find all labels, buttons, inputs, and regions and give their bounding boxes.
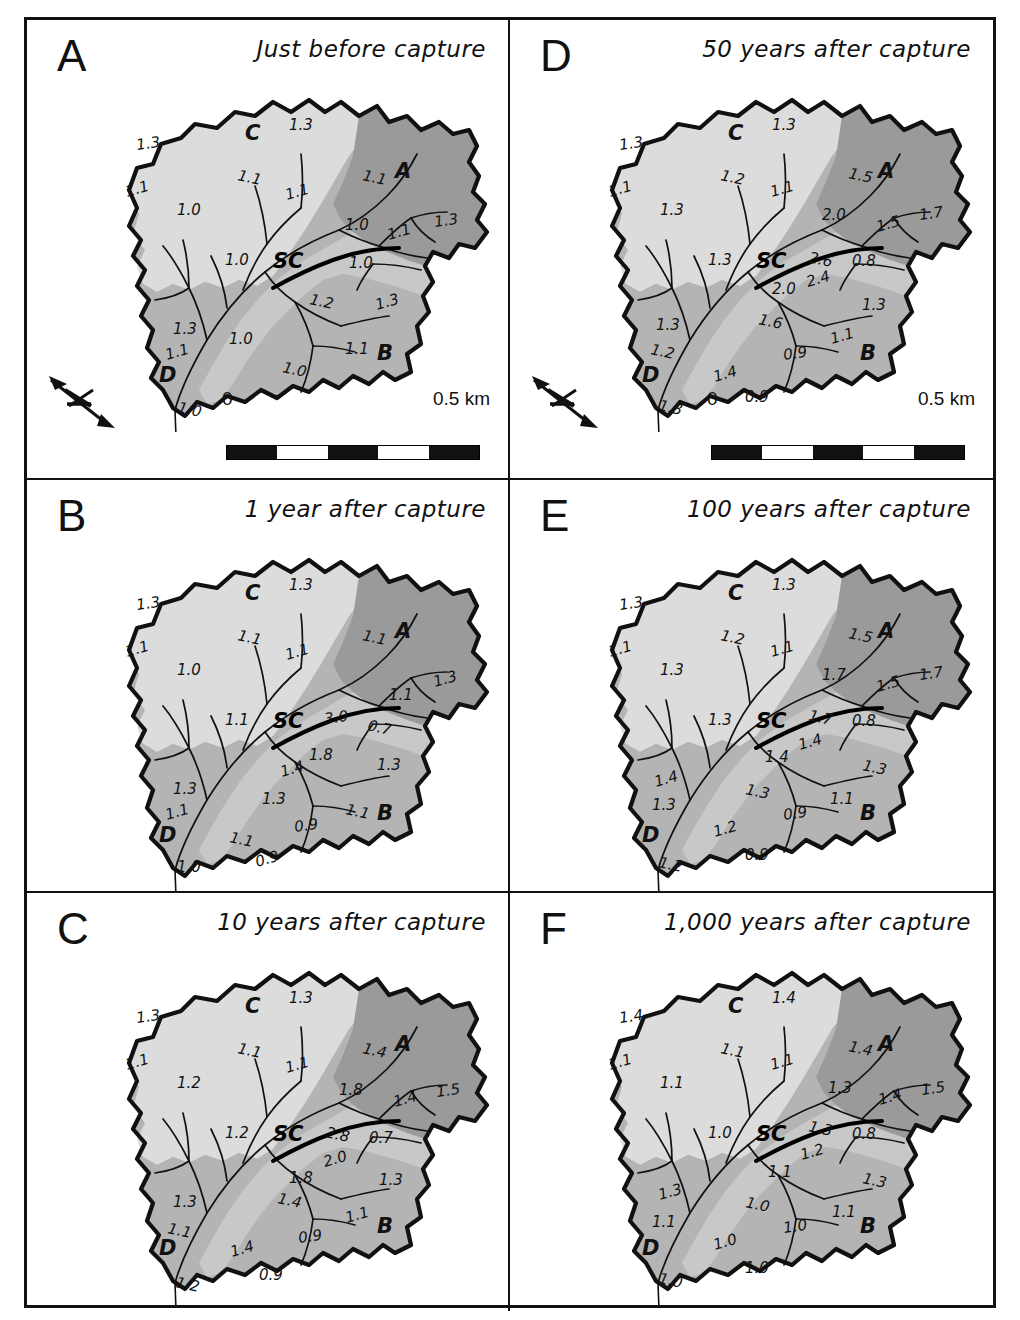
basin-label-b: B <box>377 801 393 825</box>
basin-label-d: D <box>642 823 659 847</box>
map-container: ABCDSC1.31.11.31.21.31.11.31.52.01.51.72… <box>560 72 990 432</box>
reach-value: 3.0 <box>323 707 349 728</box>
reach-value: 0.9 <box>745 846 769 864</box>
reach-value: 1.3 <box>379 1171 403 1189</box>
reach-value: 1.7 <box>918 663 945 684</box>
basin-map: ABCDSC1.31.11.31.21.31.11.31.52.01.51.72… <box>560 72 990 432</box>
north-arrow-icon <box>528 370 606 434</box>
reach-value: 1.3 <box>135 1006 161 1027</box>
basin-label-c: C <box>245 121 261 145</box>
reach-value: 1.1 <box>389 686 413 704</box>
reach-value: 2.0 <box>822 206 846 224</box>
basin-label-c: C <box>245 581 261 605</box>
reach-value: 1.0 <box>657 1269 684 1292</box>
reach-value: 0.9 <box>259 1266 283 1284</box>
panel-d: D50 years after captureABCDSC1.31.11.31.… <box>510 20 993 480</box>
reach-value: 0.8 <box>852 1125 876 1143</box>
scale-segment <box>277 446 327 459</box>
scale-segment <box>914 446 964 459</box>
basin-label-c: C <box>728 581 744 605</box>
basin-map: ABCDSC1.31.11.31.21.31.11.31.51.71.51.71… <box>560 532 990 892</box>
basin-label-c: C <box>728 994 744 1018</box>
reach-value: 1.3 <box>173 1193 197 1211</box>
reach-value: 1.3 <box>656 316 680 334</box>
reach-value: 2.0 <box>772 280 796 298</box>
reach-value: 1.3 <box>289 116 313 134</box>
reach-value: 1.0 <box>745 1259 769 1277</box>
reach-value: 1.3 <box>660 201 684 219</box>
basin-label-d: D <box>159 823 176 847</box>
reach-value: 1.3 <box>862 296 886 314</box>
scale-bar-group: 00.5 km <box>707 388 975 462</box>
panel-c: C10 years after captureABCDSC1.31.11.21.… <box>27 893 510 1311</box>
reach-value: 1.2 <box>174 1273 201 1296</box>
reach-value: 1.1 <box>660 1074 684 1092</box>
scale-min-label: 0 <box>707 388 718 410</box>
reach-value: 1.1 <box>768 1163 792 1181</box>
map-container: ABCDSC1.31.11.21.11.31.11.21.41.81.41.52… <box>77 945 507 1305</box>
reach-value: 1.0 <box>177 661 201 679</box>
scale-bar <box>711 445 965 460</box>
reach-value: 1.3 <box>262 790 286 808</box>
reach-value: 0.9 <box>297 1226 323 1247</box>
map-container: ABCDSC1.31.11.01.11.31.11.11.11.11.33.00… <box>77 532 507 892</box>
reach-value: 1.4 <box>618 1006 644 1027</box>
reach-value: 1.0 <box>782 1216 808 1237</box>
reach-value: 1.3 <box>652 796 676 814</box>
scale-segment <box>712 446 762 459</box>
north-arrow-icon <box>45 370 123 434</box>
reach-value: 1.3 <box>135 133 161 154</box>
scale-segment <box>429 446 479 459</box>
capture-label-sc: SC <box>756 709 787 733</box>
reach-value: 1.0 <box>708 1124 732 1142</box>
basin-label-c: C <box>245 994 261 1018</box>
reach-value: 1.0 <box>229 330 253 348</box>
reach-value: 1.1 <box>345 340 369 358</box>
reach-value: 1.3 <box>173 780 197 798</box>
reach-value: 1.1 <box>832 1203 856 1221</box>
basin-label-d: D <box>642 363 659 387</box>
reach-value: 1.3 <box>828 1079 852 1097</box>
reach-value: 1.1 <box>652 1213 676 1231</box>
basin-label-a: A <box>393 159 411 183</box>
basin-label-b: B <box>860 341 876 365</box>
capture-label-sc: SC <box>756 1122 787 1146</box>
basin-label-a: A <box>876 159 894 183</box>
reach-value: 1.0 <box>177 201 201 219</box>
panel-e: E100 years after captureABCDSC1.31.11.31… <box>510 480 993 893</box>
reach-value: 0.9 <box>782 803 808 824</box>
scale-segment <box>227 446 277 459</box>
reach-value: 1.3 <box>618 593 644 614</box>
basin-label-a: A <box>876 619 894 643</box>
reach-value: 1.8 <box>339 1081 363 1099</box>
reach-value: 1.5 <box>920 1078 946 1099</box>
basin-label-b: B <box>860 1214 876 1238</box>
basin-label-d: D <box>159 1236 176 1260</box>
basin-map: ABCDSC1.31.11.01.11.31.11.11.11.11.33.00… <box>77 532 507 892</box>
scale-max-label: 0.5 km <box>918 388 975 410</box>
basin-label-c: C <box>728 121 744 145</box>
panel-title: Just before capture <box>256 36 486 62</box>
reach-value: 1.7 <box>918 203 945 224</box>
reach-value: 0.9 <box>293 815 319 836</box>
scale-bar <box>226 445 480 460</box>
reach-value: 1.0 <box>176 398 203 421</box>
map-container: ABCDSC1.41.11.11.11.41.11.01.41.31.41.51… <box>560 945 990 1305</box>
reach-value: 1.3 <box>708 251 732 269</box>
figure-frame: AJust before captureABCDSC1.31.11.01.11.… <box>24 17 996 1308</box>
reach-value: 1.8 <box>309 746 333 764</box>
scale-min-label: 0 <box>222 388 233 410</box>
reach-value: 1.4 <box>772 989 796 1007</box>
reach-value: 1.2 <box>225 1124 249 1142</box>
capture-label-sc: SC <box>273 1122 304 1146</box>
reach-value: 1.3 <box>135 593 161 614</box>
panel-title: 100 years after capture <box>687 496 971 522</box>
panel-f: F1,000 years after captureABCDSC1.41.11.… <box>510 893 993 1311</box>
reach-value: 1.3 <box>433 210 459 231</box>
reach-value: 0.8 <box>852 252 876 270</box>
reach-value: 1.3 <box>289 989 313 1007</box>
panel-title: 50 years after capture <box>702 36 971 62</box>
map-container: ABCDSC1.31.11.31.21.31.11.31.51.71.51.71… <box>560 532 990 892</box>
reach-value: 1.3 <box>772 116 796 134</box>
reach-value: 1.0 <box>349 254 373 272</box>
